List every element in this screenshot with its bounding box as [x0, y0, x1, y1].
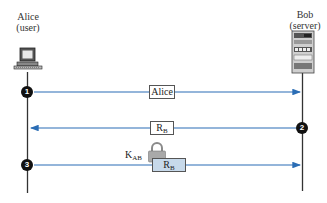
- alice-name: Alice: [8, 11, 48, 22]
- message-1-box: Alice: [149, 85, 175, 99]
- key-label-sub: AB: [132, 154, 142, 162]
- server-icon: [292, 31, 314, 73]
- alice-label: Alice (user): [8, 11, 48, 33]
- message-1-label: Alice: [151, 86, 173, 97]
- message-3-label-sub: B: [170, 164, 175, 172]
- bob-label: Bob (server): [283, 9, 327, 31]
- bob-name: Bob: [283, 9, 327, 20]
- step-1-badge: 1: [21, 86, 33, 98]
- message-2-label: R: [156, 122, 163, 133]
- message-2-label-sub: B: [163, 127, 168, 135]
- message-2-box: RB: [150, 121, 174, 135]
- step-3-badge: 3: [21, 159, 33, 171]
- message-3-label: R: [163, 159, 170, 170]
- computer-icon: [14, 48, 42, 69]
- step-2-badge: 2: [296, 122, 308, 134]
- alice-role: (user): [8, 22, 48, 33]
- bob-role: (server): [283, 20, 327, 31]
- sequence-lines: [0, 0, 327, 203]
- key-label: KAB: [125, 149, 142, 160]
- message-3-encrypted-box: RB: [152, 158, 186, 172]
